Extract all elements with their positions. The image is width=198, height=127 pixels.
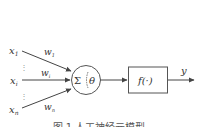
weight-wi-label: wi — [41, 68, 51, 79]
activation-label: f(·) — [137, 75, 153, 86]
weight-w1-label: w1 — [44, 47, 55, 58]
weight-wn-label: wn — [44, 102, 55, 113]
input-xn-label: xn — [9, 104, 19, 116]
neuron-diagram: x1 xi xn ⋮ ⋮ w1 wi wn Σ θ f(·) y — [0, 0, 198, 127]
input-xi-label: xi — [10, 75, 18, 87]
ellipsis-bottom: ⋮ — [20, 92, 28, 101]
input-x1-label: x1 — [9, 45, 18, 57]
sigma-symbol: Σ — [74, 75, 81, 86]
theta-symbol: θ — [89, 75, 95, 86]
ellipsis-top: ⋮ — [20, 63, 28, 72]
figure-caption: 图 1 人工神经元模型 — [0, 119, 198, 127]
output-y-label: y — [180, 65, 187, 76]
